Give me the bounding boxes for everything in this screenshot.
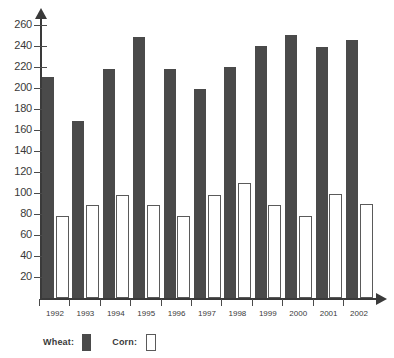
x-axis-tick [313, 299, 314, 306]
x-axis-tick [69, 299, 70, 306]
bar-corn-1996 [177, 216, 190, 298]
legend-swatch-corn [146, 334, 156, 351]
y-axis-tick-label: 80 [4, 208, 32, 219]
bar-wheat-2000 [285, 35, 297, 298]
y-axis-tick-label-wrap: 240 [0, 40, 32, 51]
x-axis-tick [39, 299, 40, 306]
bar-corn-1997 [208, 195, 221, 298]
bar-corn-2000 [299, 216, 312, 298]
bar-wheat-2001 [316, 47, 328, 298]
bar-chart: 20406080100120140160180200220240260 1992… [0, 0, 394, 358]
bar-wheat-1998 [224, 67, 236, 298]
x-axis-tick [252, 299, 253, 306]
bar-wheat-1996 [164, 69, 176, 298]
bar-wheat-1997 [194, 89, 206, 298]
bar-wheat-1994 [103, 69, 115, 298]
chart-legend: Wheat: Corn: [43, 332, 156, 352]
x-axis-tick [221, 299, 222, 306]
y-axis-tick-label: 260 [4, 19, 32, 30]
y-axis-tick-label: 120 [4, 166, 32, 177]
y-axis-tick-label-wrap: 40 [0, 250, 32, 261]
y-axis-tick-label-wrap: 200 [0, 82, 32, 93]
y-axis-tick-label-wrap: 220 [0, 61, 32, 72]
y-axis-tick-label-wrap: 180 [0, 103, 32, 114]
y-axis-tick-label-wrap: 60 [0, 229, 32, 240]
bar-corn-1999 [268, 205, 281, 298]
y-axis-tick-label: 220 [4, 61, 32, 72]
y-axis-tick-label-wrap: 120 [0, 166, 32, 177]
bar-wheat-1995 [133, 37, 145, 298]
legend-label-wheat: Wheat: [43, 337, 74, 347]
bars-layer [42, 14, 378, 298]
bar-corn-2001 [329, 194, 342, 298]
y-axis-tick-label: 240 [4, 40, 32, 51]
x-axis-tick [191, 299, 192, 306]
y-axis-tick-label-wrap: 260 [0, 19, 32, 30]
bar-wheat-1992 [42, 77, 54, 298]
x-axis-tick-label: 2002 [339, 309, 379, 318]
y-axis-tick-label: 180 [4, 103, 32, 114]
y-axis-tick-label: 40 [4, 250, 32, 261]
bar-wheat-1993 [72, 121, 84, 298]
x-axis-line [40, 298, 378, 300]
y-axis-tick-label-wrap: 160 [0, 124, 32, 135]
bar-corn-1994 [116, 195, 129, 298]
y-axis-tick-label-wrap: 20 [0, 271, 32, 282]
y-axis-tick-label: 60 [4, 229, 32, 240]
y-axis-tick-label-wrap: 140 [0, 145, 32, 156]
bar-corn-1998 [238, 183, 251, 298]
x-axis-tick [343, 299, 344, 306]
y-axis-tick-label: 100 [4, 187, 32, 198]
bar-wheat-2002 [346, 40, 358, 298]
legend-swatch-wheat [82, 334, 91, 351]
bar-corn-2002 [360, 204, 373, 298]
x-axis-tick [100, 299, 101, 306]
y-axis-tick-label-wrap: 80 [0, 208, 32, 219]
x-axis-tick [282, 299, 283, 306]
y-axis-tick-label: 140 [4, 145, 32, 156]
y-axis-tick-label: 160 [4, 124, 32, 135]
bar-corn-1992 [56, 216, 69, 298]
bar-wheat-1999 [255, 46, 267, 298]
legend-label-corn: Corn: [112, 337, 137, 347]
bar-corn-1995 [147, 205, 160, 298]
y-axis-tick-label: 200 [4, 82, 32, 93]
x-axis-tick [130, 299, 131, 306]
bar-corn-1993 [86, 205, 99, 298]
y-axis-tick-label: 20 [4, 271, 32, 282]
x-axis-tick [161, 299, 162, 306]
y-axis-tick-label-wrap: 100 [0, 187, 32, 198]
